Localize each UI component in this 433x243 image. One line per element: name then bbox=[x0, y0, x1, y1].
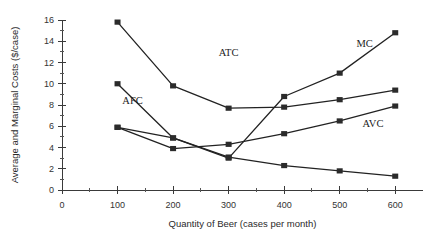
series-annotation-labels: ATCAFCAVCMC bbox=[122, 38, 383, 130]
data-point-avc-200 bbox=[170, 146, 176, 151]
cost-curves-chart: 0246810121416 0100200300400500600 ATCAFC… bbox=[0, 0, 433, 243]
y-tick-label: 14 bbox=[44, 36, 54, 46]
series-label-afc: AFC bbox=[122, 95, 142, 106]
data-point-avc-400 bbox=[281, 131, 287, 136]
series-lines-group bbox=[118, 22, 396, 176]
y-tick-label: 6 bbox=[49, 121, 54, 131]
series-label-avc: AVC bbox=[363, 118, 384, 129]
data-point-avc-600 bbox=[392, 103, 398, 108]
data-point-avc-500 bbox=[337, 118, 343, 123]
data-point-avc-300 bbox=[226, 142, 232, 147]
y-tick-label: 16 bbox=[44, 15, 54, 25]
y-tick-label: 0 bbox=[49, 185, 54, 195]
series-line-atc bbox=[118, 22, 396, 108]
x-tick-label: 400 bbox=[277, 200, 292, 210]
data-point-mc-200 bbox=[170, 135, 176, 140]
x-tick-label: 500 bbox=[332, 200, 347, 210]
x-tick-label: 0 bbox=[59, 200, 64, 210]
data-point-afc-500 bbox=[337, 168, 343, 173]
data-point-atc-200 bbox=[170, 83, 176, 88]
data-point-atc-100 bbox=[115, 20, 121, 25]
series-label-mc: MC bbox=[357, 38, 373, 49]
x-tick-label: 600 bbox=[388, 200, 403, 210]
y-axis-group: 0246810121416 bbox=[44, 15, 66, 195]
y-tick-label: 10 bbox=[44, 79, 54, 89]
x-axis-title: Quantity of Beer (cases per month) bbox=[169, 218, 317, 229]
data-point-mc-100 bbox=[115, 125, 121, 130]
x-tick-label: 200 bbox=[166, 200, 181, 210]
data-point-mc-500 bbox=[337, 71, 343, 76]
data-point-afc-600 bbox=[392, 174, 398, 179]
y-tick-label: 8 bbox=[49, 100, 54, 110]
x-axis-group: 0100200300400500600 bbox=[59, 186, 423, 210]
data-point-mc-300 bbox=[226, 156, 232, 161]
series-label-atc: ATC bbox=[219, 47, 239, 58]
x-tick-label: 300 bbox=[221, 200, 236, 210]
data-point-mc-400 bbox=[281, 94, 287, 99]
chart-canvas: 0246810121416 0100200300400500600 ATCAFC… bbox=[0, 0, 433, 243]
x-tick-label: 100 bbox=[110, 200, 125, 210]
y-axis-tick-labels: 0246810121416 bbox=[44, 15, 54, 195]
data-point-afc-100 bbox=[115, 81, 121, 86]
y-tick-label: 2 bbox=[49, 164, 54, 174]
data-point-mc-600 bbox=[392, 30, 398, 35]
data-point-atc-400 bbox=[281, 105, 287, 110]
data-point-atc-300 bbox=[226, 106, 232, 111]
data-point-afc-400 bbox=[281, 163, 287, 168]
x-axis-tick-labels: 0100200300400500600 bbox=[59, 200, 402, 210]
data-point-atc-600 bbox=[392, 88, 398, 93]
y-tick-label: 12 bbox=[44, 58, 54, 68]
data-point-atc-500 bbox=[337, 97, 343, 102]
y-tick-label: 4 bbox=[49, 143, 54, 153]
y-axis-title: Average and Marginal Costs ($/case) bbox=[9, 27, 20, 184]
